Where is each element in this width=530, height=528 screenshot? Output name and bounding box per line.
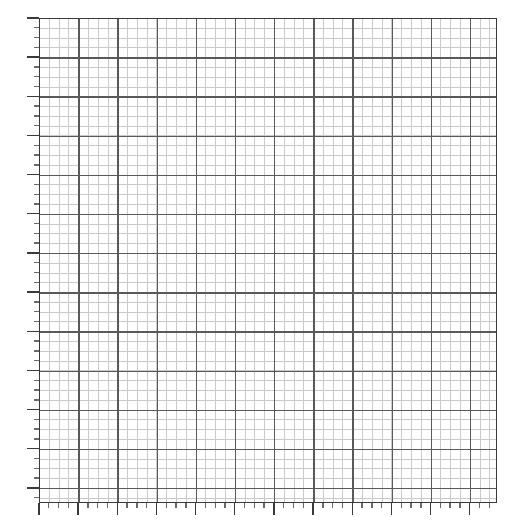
gridline-minor-horizontal	[39, 175, 497, 176]
gridline-minor-horizontal	[39, 321, 497, 322]
x-tick-major	[273, 503, 274, 515]
gridline-minor-horizontal	[39, 429, 497, 430]
x-tick-minor	[107, 503, 108, 508]
x-tick-minor	[381, 503, 382, 508]
gridline-minor-horizontal	[39, 243, 497, 244]
x-tick-major	[430, 503, 431, 515]
gridline-minor-vertical	[274, 18, 275, 503]
gridline-minor-vertical	[421, 18, 422, 503]
x-tick-minor	[68, 503, 69, 508]
x-tick-major	[234, 503, 235, 515]
gridline-minor-horizontal	[39, 145, 497, 146]
x-axis-ticks	[39, 503, 497, 528]
gridline-minor-horizontal	[39, 67, 497, 68]
x-tick-minor	[87, 503, 88, 508]
gridline-minor-vertical	[68, 18, 69, 503]
gridline-major-horizontal	[39, 136, 497, 137]
y-tick-major	[27, 174, 39, 175]
gridline-minor-vertical	[215, 18, 216, 503]
gridline-major-horizontal	[39, 214, 497, 215]
x-tick-minor	[185, 503, 186, 508]
figure-canvas	[0, 0, 530, 528]
gridline-minor-horizontal	[39, 233, 497, 234]
gridline-minor-vertical	[382, 18, 383, 503]
gridline-minor-vertical	[362, 18, 363, 503]
gridline-major-vertical	[157, 18, 158, 503]
gridline-minor-vertical	[186, 18, 187, 503]
axis-spine-top	[39, 18, 497, 19]
gridline-minor-vertical	[411, 18, 412, 503]
gridline-major-vertical	[235, 18, 236, 503]
gridline-minor-horizontal	[39, 292, 497, 293]
gridline-minor-vertical	[117, 18, 118, 503]
x-tick-minor	[489, 503, 490, 508]
gridline-minor-vertical	[431, 18, 432, 503]
x-tick-minor	[175, 503, 176, 508]
y-tick-major	[27, 96, 39, 97]
x-tick-minor	[479, 503, 480, 508]
x-tick-minor	[166, 503, 167, 508]
x-tick-minor	[293, 503, 294, 508]
gridline-minor-vertical	[470, 18, 471, 503]
gridline-minor-horizontal	[39, 253, 497, 254]
x-tick-major	[117, 503, 118, 515]
gridline-minor-vertical	[284, 18, 285, 503]
gridline-minor-horizontal	[39, 204, 497, 205]
gridline-major-horizontal	[39, 410, 497, 411]
x-tick-major	[312, 503, 313, 515]
gridline-minor-vertical	[440, 18, 441, 503]
x-tick-minor	[410, 503, 411, 508]
x-tick-minor	[332, 503, 333, 508]
gridline-major-vertical	[352, 18, 353, 503]
x-tick-minor	[342, 503, 343, 508]
gridline-minor-vertical	[196, 18, 197, 503]
y-tick-major	[27, 252, 39, 253]
minor-gridlines	[39, 18, 497, 503]
gridline-minor-horizontal	[39, 214, 497, 215]
gridline-minor-horizontal	[39, 380, 497, 381]
x-tick-major	[156, 503, 157, 515]
x-tick-minor	[263, 503, 264, 508]
gridline-major-vertical	[470, 18, 471, 503]
gridline-minor-horizontal	[39, 184, 497, 185]
gridline-minor-horizontal	[39, 390, 497, 391]
x-tick-major	[77, 503, 78, 515]
gridline-minor-horizontal	[39, 106, 497, 107]
gridline-minor-horizontal	[39, 224, 497, 225]
gridline-minor-vertical	[313, 18, 314, 503]
y-tick-major	[27, 448, 39, 449]
gridline-minor-horizontal	[39, 126, 497, 127]
gridline-major-vertical	[274, 18, 275, 503]
gridline-minor-horizontal	[39, 498, 497, 499]
x-tick-minor	[322, 503, 323, 508]
gridline-minor-vertical	[401, 18, 402, 503]
x-tick-minor	[48, 503, 49, 508]
gridline-minor-vertical	[49, 18, 50, 503]
gridline-minor-vertical	[235, 18, 236, 503]
gridline-minor-horizontal	[39, 439, 497, 440]
x-tick-minor	[254, 503, 255, 508]
gridline-minor-vertical	[156, 18, 157, 503]
gridline-minor-vertical	[108, 18, 109, 503]
x-tick-major	[38, 503, 39, 515]
gridline-minor-vertical	[391, 18, 392, 503]
gridline-minor-vertical	[245, 18, 246, 503]
major-gridlines	[39, 18, 497, 503]
x-tick-minor	[401, 503, 402, 508]
y-tick-major	[27, 17, 39, 18]
gridline-minor-horizontal	[39, 419, 497, 420]
gridline-minor-horizontal	[39, 331, 497, 332]
axis-spine-left	[39, 18, 40, 503]
gridline-major-vertical	[431, 18, 432, 503]
x-tick-minor	[58, 503, 59, 508]
x-tick-minor	[420, 503, 421, 508]
gridline-minor-vertical	[480, 18, 481, 503]
gridline-minor-vertical	[127, 18, 128, 503]
gridline-minor-vertical	[98, 18, 99, 503]
gridline-minor-vertical	[489, 18, 490, 503]
y-tick-major	[27, 487, 39, 488]
gridline-minor-horizontal	[39, 459, 497, 460]
x-tick-minor	[146, 503, 147, 508]
x-tick-minor	[283, 503, 284, 508]
x-tick-minor	[303, 503, 304, 508]
